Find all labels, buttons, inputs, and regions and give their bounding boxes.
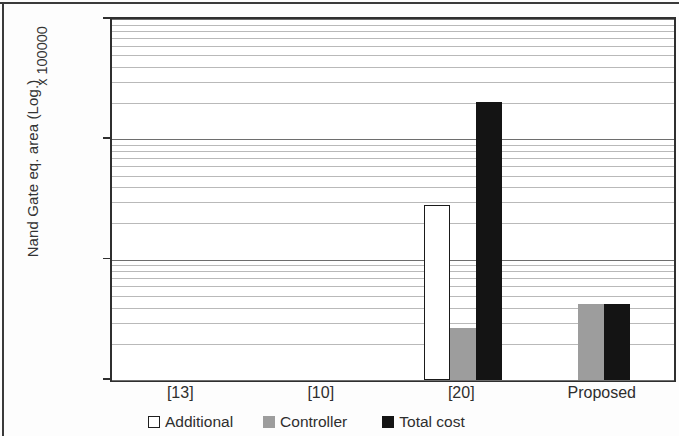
white-square-icon [148, 416, 160, 428]
bar-controller-3 [578, 304, 604, 380]
gray-square-icon [263, 416, 275, 428]
plot-area [110, 17, 676, 382]
bar-series-container [112, 19, 674, 380]
legend-label: Total cost [399, 413, 464, 431]
y-axis-tick-mark [103, 17, 110, 19]
legend-label: Additional [165, 413, 233, 431]
chart-legend: AdditionalControllerTotal cost [148, 411, 465, 433]
legend-label: Controller [280, 413, 347, 431]
x-axis-tick-group: [13][10][20]Proposed [110, 384, 676, 408]
scan-border-left [2, 2, 4, 436]
y-axis-multiplier-label: x 100000 [34, 11, 50, 101]
legend-item-total-cost: Total cost [382, 413, 464, 431]
y-axis-tick-mark [103, 378, 110, 380]
y-axis-tick-mark [103, 258, 110, 260]
bar-total-3 [604, 304, 630, 380]
legend-item-additional: Additional [148, 413, 233, 431]
gridline-major [112, 380, 674, 381]
x-axis-tick-label: Proposed [568, 384, 637, 402]
bar-controller-2 [450, 328, 476, 380]
bar-additional-2 [424, 205, 450, 380]
x-axis-tick-label: [20] [448, 384, 475, 402]
chart-figure: Nand Gate eq. area (Log.) x 100000 10001… [0, 0, 679, 436]
scan-border-top [0, 2, 679, 4]
legend-item-controller: Controller [263, 413, 347, 431]
y-axis-tick-mark [103, 137, 110, 139]
x-axis-tick-label: [13] [167, 384, 194, 402]
x-axis-tick-label: [10] [307, 384, 334, 402]
bar-total-2 [476, 102, 502, 380]
black-square-icon [382, 416, 394, 428]
